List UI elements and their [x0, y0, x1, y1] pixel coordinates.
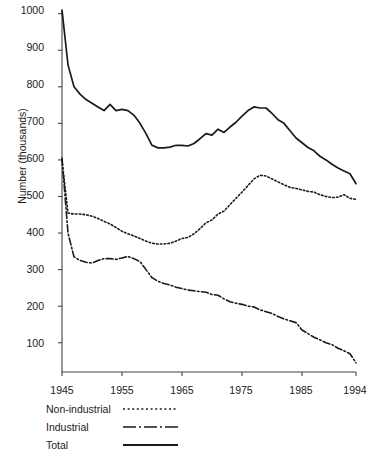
- chart-figure: Number (thousands) 1000 900 800 700 600 …: [0, 0, 369, 457]
- legend-item-industrial: Industrial: [46, 422, 89, 433]
- series-line-non-industrial: [62, 160, 356, 244]
- series-lines: [62, 10, 356, 363]
- series-line-total: [62, 10, 356, 184]
- axes: [58, 10, 356, 376]
- legend-item-non-industrial: Non-industrial: [46, 404, 111, 415]
- legend-item-total: Total: [46, 440, 68, 451]
- series-line-industrial: [62, 158, 356, 363]
- plot-area: [0, 0, 369, 457]
- legend-swatches: [123, 409, 178, 445]
